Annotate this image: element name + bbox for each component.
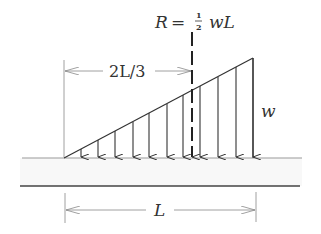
resultant-symbol: R: [154, 12, 168, 32]
fraction-denominator: 2: [196, 22, 202, 32]
dimension-2L-3: 2L/3: [64, 60, 191, 157]
resultant-expression: wL: [209, 12, 235, 32]
triangular-load: [64, 58, 253, 158]
distance-label: 2L/3: [109, 62, 145, 81]
fraction-numerator: 1: [196, 10, 202, 20]
equals-sign: =: [171, 12, 185, 32]
dimension-L: L: [65, 192, 256, 223]
length-label: L: [153, 200, 165, 220]
resultant-label: R = 1 2 wL: [154, 10, 235, 32]
load-diagram: R = 1 2 wL 2L/3 w L: [0, 0, 321, 234]
intensity-label: w: [261, 101, 276, 121]
beam: [20, 158, 302, 186]
load-arrows: [81, 58, 253, 157]
